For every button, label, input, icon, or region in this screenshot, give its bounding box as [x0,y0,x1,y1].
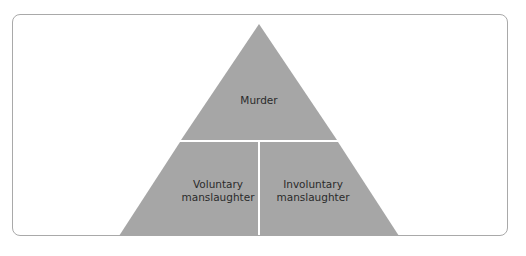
voluntary-manslaughter-label: Voluntary manslaughter [168,178,268,204]
involuntary-line2: manslaughter [263,191,363,204]
involuntary-line1: Involuntary [263,178,363,191]
murder-text: Murder [240,94,277,106]
involuntary-manslaughter-label: Involuntary manslaughter [263,178,363,204]
murder-label: Murder [209,94,309,107]
pyramid-diagram [0,0,526,256]
voluntary-line1: Voluntary [168,178,268,191]
voluntary-line2: manslaughter [168,191,268,204]
pyramid-top-section [181,24,337,140]
